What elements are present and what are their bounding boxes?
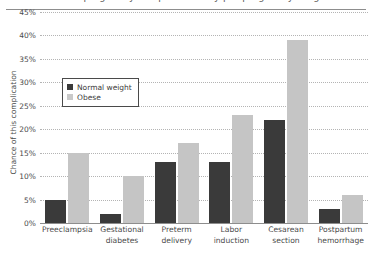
bar-chart: Chance of this complication 0%5%10%15%20… [0, 12, 372, 258]
bar-series-container [40, 12, 368, 223]
chart-legend: Normal weightObese [62, 78, 139, 107]
x-axis-label-line: Cesarean [259, 225, 314, 236]
y-axis-tick-label: 40% [19, 31, 36, 40]
bar-normal-weight[interactable] [264, 120, 285, 223]
legend-swatch-icon [67, 84, 73, 90]
x-axis-label-line: hemorrhage [313, 236, 368, 247]
bar-group [95, 12, 150, 223]
legend-label: Obese [77, 93, 101, 102]
x-axis-labels: PreeclampsiaGestationaldiabetesPretermde… [40, 225, 368, 258]
x-axis-category-label: Gestationaldiabetes [95, 225, 150, 246]
x-axis-label-line: diabetes [95, 236, 150, 247]
y-axis-tick-label: 20% [19, 125, 36, 134]
bar-normal-weight[interactable] [155, 162, 176, 223]
plot-area: 0%5%10%15%20%25%30%35%40%45% [40, 12, 368, 223]
x-axis-category-label: Postpartumhemorrhage [313, 225, 368, 246]
x-axis-category-label: Laborinduction [204, 225, 259, 246]
bar-normal-weight[interactable] [45, 200, 66, 223]
bar-obese[interactable] [123, 176, 144, 223]
bar-normal-weight[interactable] [100, 214, 121, 223]
bar-normal-weight[interactable] [319, 209, 340, 223]
x-axis-label-line: Preterm [149, 225, 204, 236]
legend-item-normal[interactable]: Normal weight [67, 82, 132, 92]
x-axis-label-line: Labor [204, 225, 259, 236]
bar-group [313, 12, 368, 223]
y-axis-tick-label: 15% [19, 148, 36, 157]
title-divider [6, 9, 366, 10]
x-axis-label-line: induction [204, 236, 259, 247]
bar-group [149, 12, 204, 223]
y-axis-title: Chance of this complication [9, 58, 18, 188]
bar-group [204, 12, 259, 223]
clipped-title-strip: Risks of pregnancy complications by pre-… [0, 0, 372, 9]
y-axis-tick-label: 0% [24, 219, 36, 228]
y-axis-tick-label: 5% [24, 195, 36, 204]
x-axis-label-line: Gestational [95, 225, 150, 236]
bar-obese[interactable] [342, 195, 363, 223]
bar-obese[interactable] [287, 40, 308, 223]
y-axis-tick-label: 45% [19, 8, 36, 17]
x-axis-category-label: Pretermdelivery [149, 225, 204, 246]
x-axis-label-line: delivery [149, 236, 204, 247]
x-axis-label-line: section [259, 236, 314, 247]
bar-obese[interactable] [178, 143, 199, 223]
bar-group [259, 12, 314, 223]
y-axis-tick-label: 30% [19, 78, 36, 87]
x-axis-line [40, 223, 368, 224]
y-axis-tick-label: 10% [19, 172, 36, 181]
bar-obese[interactable] [68, 153, 89, 223]
chart-title-clipped: Risks of pregnancy complications by pre-… [43, 0, 330, 2]
legend-item-obese[interactable]: Obese [67, 92, 132, 102]
x-axis-label-line: Postpartum [313, 225, 368, 236]
x-axis-label-line: Preeclampsia [40, 225, 95, 236]
y-axis-tick-label: 25% [19, 101, 36, 110]
bar-obese[interactable] [232, 115, 253, 223]
y-axis-tick-label: 35% [19, 54, 36, 63]
x-axis-category-label: Preeclampsia [40, 225, 95, 236]
x-axis-category-label: Cesareansection [259, 225, 314, 246]
legend-swatch-icon [67, 94, 73, 100]
bar-normal-weight[interactable] [209, 162, 230, 223]
bar-group [40, 12, 95, 223]
legend-label: Normal weight [77, 83, 132, 92]
